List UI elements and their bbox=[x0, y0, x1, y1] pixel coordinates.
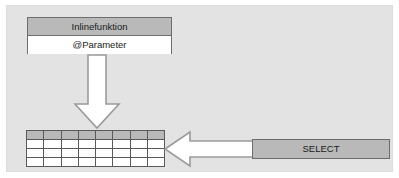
table-cell bbox=[130, 158, 147, 167]
down-arrow-icon bbox=[67, 54, 127, 130]
table-cell bbox=[78, 149, 95, 158]
table-cell bbox=[27, 140, 44, 149]
table-row bbox=[27, 131, 165, 140]
diagram-canvas: Inlinefunktion @Parameter bbox=[0, 0, 399, 178]
table-cell bbox=[78, 158, 95, 167]
diagram-panel: Inlinefunktion @Parameter bbox=[6, 5, 393, 172]
table-cell bbox=[147, 158, 164, 167]
table-cell bbox=[27, 149, 44, 158]
table-cell bbox=[61, 158, 78, 167]
table-cell bbox=[147, 140, 164, 149]
select-box-label: SELECT bbox=[252, 139, 390, 159]
table-row bbox=[27, 149, 165, 158]
table-cell bbox=[78, 140, 95, 149]
table-cell bbox=[147, 149, 164, 158]
inline-function-parameter-label: @Parameter bbox=[28, 36, 171, 54]
table-cell bbox=[27, 158, 44, 167]
table-cell bbox=[113, 158, 130, 167]
table-cell bbox=[96, 149, 113, 158]
table-cell bbox=[130, 140, 147, 149]
table-cell bbox=[61, 131, 78, 140]
result-table bbox=[26, 130, 165, 167]
table-cell bbox=[44, 149, 61, 158]
table-row bbox=[27, 158, 165, 167]
table-cell bbox=[147, 131, 164, 140]
table-cell bbox=[27, 131, 44, 140]
inline-function-header-label: Inlinefunktion bbox=[28, 18, 171, 36]
table-row bbox=[27, 140, 165, 149]
inline-function-box: Inlinefunktion @Parameter bbox=[27, 17, 172, 54]
table-cell bbox=[96, 140, 113, 149]
left-arrow-icon bbox=[164, 130, 256, 168]
table-cell bbox=[113, 149, 130, 158]
table-cell bbox=[44, 140, 61, 149]
table-cell bbox=[78, 131, 95, 140]
table-cell bbox=[61, 140, 78, 149]
table-cell bbox=[130, 149, 147, 158]
table-cell bbox=[96, 158, 113, 167]
table-cell bbox=[44, 131, 61, 140]
table-cell bbox=[44, 158, 61, 167]
table-cell bbox=[113, 131, 130, 140]
table-cell bbox=[61, 149, 78, 158]
result-table-body bbox=[27, 131, 165, 167]
table-cell bbox=[113, 140, 130, 149]
table-cell bbox=[96, 131, 113, 140]
table-cell bbox=[130, 131, 147, 140]
